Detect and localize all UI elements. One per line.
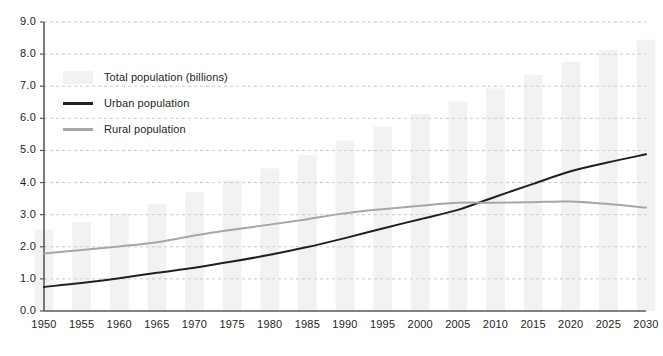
legend-swatch-total-population bbox=[63, 71, 93, 84]
total-population-bar bbox=[524, 75, 543, 311]
y-axis-tick-label: 7.0 bbox=[4, 79, 36, 91]
y-axis-tick-label: 9.0 bbox=[4, 15, 36, 27]
x-axis-tick-label: 2030 bbox=[626, 318, 663, 330]
total-population-bar bbox=[185, 192, 204, 311]
legend-label-total-population: Total population (billions) bbox=[104, 71, 228, 83]
legend-item-total-population: Total population (billions) bbox=[63, 64, 228, 90]
y-axis-tick-label: 0.0 bbox=[4, 304, 36, 316]
x-axis-tick-label: 2020 bbox=[551, 318, 591, 330]
total-population-bar bbox=[260, 168, 279, 311]
y-axis-tick-label: 4.0 bbox=[4, 176, 36, 188]
x-axis-tick-label: 1975 bbox=[212, 318, 252, 330]
x-axis-tick-label: 1965 bbox=[137, 318, 177, 330]
x-axis-tick-label: 1985 bbox=[287, 318, 327, 330]
chart-legend: Total population (billions) Urban popula… bbox=[63, 64, 228, 142]
y-axis-tick-label: 6.0 bbox=[4, 111, 36, 123]
x-axis-tick-label: 1995 bbox=[363, 318, 403, 330]
x-axis-tick-label: 2000 bbox=[400, 318, 440, 330]
legend-item-urban-population: Urban population bbox=[63, 90, 228, 116]
x-axis-tick-label: 1960 bbox=[99, 318, 139, 330]
x-axis-tick-label: 1950 bbox=[24, 318, 64, 330]
x-axis-tick-label: 1980 bbox=[250, 318, 290, 330]
total-population-bar bbox=[411, 114, 430, 311]
total-population-bar bbox=[147, 204, 166, 311]
total-population-bar bbox=[72, 222, 91, 311]
x-axis-tick-label: 2005 bbox=[438, 318, 478, 330]
total-population-bar bbox=[223, 180, 242, 311]
legend-item-rural-population: Rural population bbox=[63, 116, 228, 142]
y-axis-tick-label: 5.0 bbox=[4, 143, 36, 155]
y-axis-tick-label: 1.0 bbox=[4, 272, 36, 284]
x-axis-tick-label: 1955 bbox=[62, 318, 102, 330]
y-axis-tick-label: 2.0 bbox=[4, 240, 36, 252]
total-population-bar bbox=[599, 50, 618, 311]
y-axis-tick-label: 8.0 bbox=[4, 47, 36, 59]
y-axis-tick-label: 3.0 bbox=[4, 208, 36, 220]
x-axis-tick-label: 2025 bbox=[588, 318, 628, 330]
total-population-bar bbox=[448, 102, 467, 311]
x-axis-tick-label: 2010 bbox=[476, 318, 516, 330]
total-population-bar bbox=[373, 127, 392, 311]
legend-label-urban-population: Urban population bbox=[104, 97, 189, 109]
total-population-bar bbox=[336, 140, 355, 311]
total-population-bar bbox=[637, 40, 656, 311]
total-population-bar bbox=[298, 155, 317, 311]
x-axis-tick-label: 2015 bbox=[513, 318, 553, 330]
total-population-bar bbox=[561, 62, 580, 311]
total-population-bar bbox=[110, 214, 129, 311]
legend-label-rural-population: Rural population bbox=[104, 123, 186, 135]
x-axis-tick-label: 1970 bbox=[175, 318, 215, 330]
x-axis-tick-label: 1990 bbox=[325, 318, 365, 330]
